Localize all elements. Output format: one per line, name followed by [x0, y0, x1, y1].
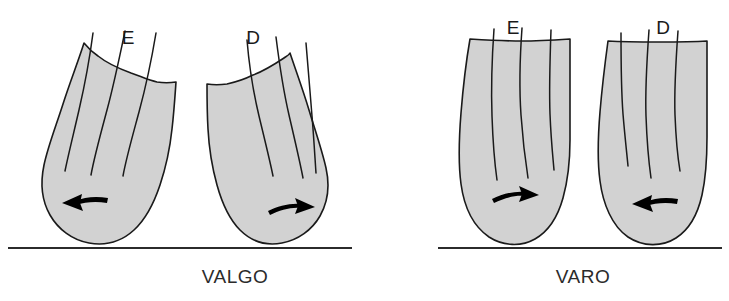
limb-label-D: D: [246, 27, 260, 48]
group-valgo: E D VALGO: [8, 27, 352, 287]
limb-label-E: E: [122, 27, 135, 48]
limb-varo-left: E: [459, 17, 570, 244]
foot-alignment-figure: E D VALGO: [0, 0, 729, 301]
limb-valgo-right: D: [207, 27, 328, 244]
limb-valgo-left: E: [42, 27, 176, 244]
limb-label-E: E: [507, 17, 520, 38]
limb-outline-varo-left: [459, 39, 570, 244]
figure-canvas: E D VALGO: [0, 0, 729, 301]
limb-varo-right: D: [598, 17, 707, 245]
group-varo: E D VARO: [438, 17, 722, 287]
limb-outline-varo-right: [598, 41, 707, 245]
limb-outline-valgo-left: [42, 43, 176, 244]
caption-valgo: VALGO: [202, 266, 269, 287]
caption-varo: VARO: [556, 266, 610, 287]
limb-label-D: D: [656, 17, 670, 38]
